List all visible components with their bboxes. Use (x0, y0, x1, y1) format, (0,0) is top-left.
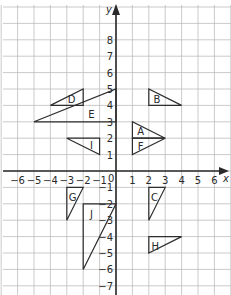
x-tick-label: −3 (59, 175, 74, 186)
x-tick-label: 4 (178, 175, 184, 186)
x-tick-label: −4 (43, 175, 58, 186)
y-tick-label: 7 (107, 51, 113, 62)
y-tick-label: 4 (107, 100, 113, 111)
triangle-label-c: C (151, 192, 158, 203)
x-tick-label: 5 (195, 175, 201, 186)
y-tick-label: 8 (107, 35, 113, 46)
y-tick-label: −4 (98, 232, 113, 243)
triangle-label-h: H (152, 241, 160, 252)
x-tick-label: 1 (129, 175, 135, 186)
x-tick-label: −6 (10, 175, 25, 186)
y-axis-label: y (105, 4, 113, 15)
x-tick-label: 6 (211, 175, 217, 186)
triangle-label-b: B (154, 94, 161, 105)
triangle-label-d: D (68, 94, 76, 105)
x-tick-label: 3 (162, 175, 168, 186)
coordinate-grid: xy0−6−5−4−3−2−112345687654321−1−2−3−4−5−… (0, 0, 231, 295)
y-tick-label: −1 (98, 182, 113, 193)
triangle-label-g: G (69, 192, 77, 203)
x-axis-label: x (222, 173, 229, 184)
triangle-label-i: I (90, 140, 93, 151)
y-tick-label: −5 (98, 248, 113, 259)
y-tick-label: −6 (98, 264, 113, 275)
x-tick-label: −2 (76, 175, 91, 186)
y-tick-label: 1 (107, 150, 113, 161)
y-tick-label: 6 (107, 68, 113, 79)
triangle-label-j: J (89, 209, 93, 220)
triangle-label-f: F (138, 141, 144, 152)
y-tick-label: 2 (107, 133, 113, 144)
x-tick-label: 2 (146, 175, 152, 186)
triangle-label-a: A (137, 126, 144, 137)
axes (3, 4, 229, 295)
triangle-label-e: E (88, 109, 94, 120)
y-tick-label: −7 (98, 281, 113, 292)
y-axis-arrow-icon (112, 4, 120, 15)
x-tick-label: −5 (27, 175, 42, 186)
tick-labels: xy0−6−5−4−3−2−112345687654321−1−2−3−4−5−… (10, 4, 229, 292)
y-tick-label: 5 (107, 84, 113, 95)
